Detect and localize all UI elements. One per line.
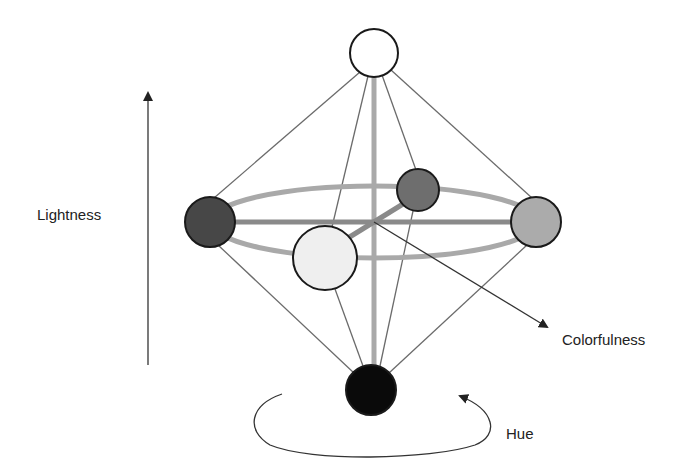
node-right-light [511,197,561,247]
hue-label: Hue [506,425,534,442]
color-solid-diagram [0,0,692,474]
node-back-medium [397,169,439,211]
node-bottom-black [346,365,396,415]
colorfulness-label: Colorfulness [562,331,645,348]
node-top-white [350,29,398,77]
node-front-pale [293,226,357,290]
lightness-label: Lightness [37,206,101,223]
node-left-dark [185,197,235,247]
